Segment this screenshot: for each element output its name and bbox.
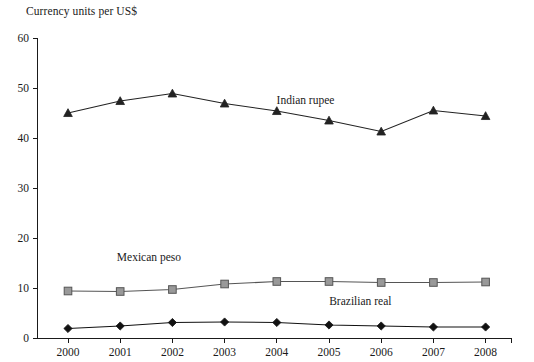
currency-line-chart: Currency units per US$ 0102030405060 200… [0, 0, 534, 362]
x-tick-label: 2004 [265, 346, 288, 358]
y-tick-label: 60 [18, 32, 30, 44]
y-axis-ticks: 0102030405060 [18, 32, 38, 344]
data-point-marker [377, 322, 385, 330]
data-point-marker [116, 322, 124, 330]
data-point-marker [64, 287, 72, 295]
series-mexican-peso [64, 278, 489, 296]
data-point-marker [429, 106, 438, 114]
data-point-marker [430, 279, 438, 287]
data-point-marker [168, 318, 176, 326]
data-point-marker [273, 278, 281, 286]
plot-area: 0102030405060 20002001200220032004200520… [0, 0, 534, 362]
y-tick-label: 0 [23, 332, 29, 344]
y-tick-label: 20 [18, 232, 30, 244]
x-tick-label: 2007 [422, 346, 445, 358]
x-tick-label: 2006 [370, 346, 393, 358]
series-annotation: Brazilian real [329, 295, 391, 307]
y-tick-label: 30 [18, 182, 30, 194]
data-point-marker [168, 89, 177, 97]
data-point-marker [482, 323, 490, 331]
data-point-marker [221, 318, 229, 326]
data-point-marker [429, 323, 437, 331]
y-tick-label: 10 [18, 282, 30, 294]
y-tick-label: 40 [18, 132, 30, 144]
x-tick-label: 2005 [318, 346, 341, 358]
data-point-marker [377, 279, 385, 287]
series-annotation: Indian rupee [277, 94, 335, 107]
data-point-marker [64, 324, 72, 332]
data-point-marker [325, 321, 333, 329]
data-series-layer [64, 89, 490, 332]
x-tick-label: 2002 [161, 346, 184, 358]
x-tick-label: 2003 [213, 346, 236, 358]
x-tick-label: 2000 [57, 346, 80, 358]
x-tick-label: 2001 [109, 346, 132, 358]
x-tick-label: 2008 [474, 346, 497, 358]
series-annotations: Indian rupeeMexican pesoBrazilian real [117, 94, 392, 307]
data-point-marker [273, 318, 281, 326]
data-point-marker [325, 278, 333, 286]
data-point-marker [169, 286, 177, 294]
data-point-marker [482, 278, 490, 286]
data-point-marker [116, 288, 124, 296]
y-tick-label: 50 [18, 82, 30, 94]
series-annotation: Mexican peso [117, 251, 181, 264]
data-point-marker [221, 280, 229, 288]
series-brazilian-real [64, 318, 490, 333]
x-axis-ticks: 200020012002200320042005200620072008 [57, 338, 512, 358]
